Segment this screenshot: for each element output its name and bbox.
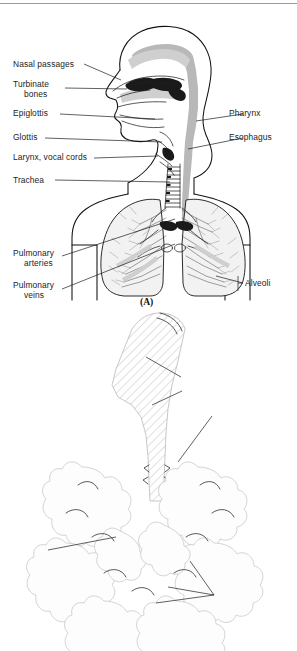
label-turbinate-bones: Turbinate bones — [13, 79, 91, 100]
panel-a-upper-respiratory-diagram: Nasal passages Turbinate bones Epiglotti… — [0, 8, 297, 313]
label-esophagus: Esophagus — [229, 132, 272, 142]
label-pulmonary-arteries-line2: arteries — [13, 258, 91, 268]
panel-b-labels: Terminal bronchiole Respiratory bronchio… — [0, 305, 297, 651]
label-nasal-passages: Nasal passages — [13, 59, 74, 69]
label-pharynx: Pharynx — [229, 108, 260, 118]
label-glottis: Glottis — [13, 132, 37, 142]
label-turbinate-bones-line2: bones — [13, 89, 91, 99]
label-alveoli: Alveoli — [245, 278, 270, 288]
label-turbinate-bones-line1: Turbinate — [13, 79, 49, 89]
label-trachea: Trachea — [13, 175, 44, 185]
label-pulmonary-veins-line1: Pulmonary — [13, 280, 54, 290]
label-epiglottis: Epiglottis — [13, 108, 48, 118]
label-pulmonary-arteries-line1: Pulmonary — [13, 248, 54, 258]
label-larynx-vocal-cords: Larynx, vocal cords — [13, 152, 87, 162]
label-pulmonary-veins-line2: veins — [13, 290, 91, 300]
panel-a-labels: Nasal passages Turbinate bones Epiglotti… — [0, 8, 297, 313]
top-divider-rule — [0, 3, 297, 4]
label-pulmonary-arteries: Pulmonary arteries — [13, 248, 91, 269]
label-pulmonary-veins: Pulmonary veins — [13, 280, 91, 301]
panel-b-alveolar-unit-diagram: Terminal bronchiole Respiratory bronchio… — [0, 305, 297, 651]
respiratory-system-figure: Nasal passages Turbinate bones Epiglotti… — [0, 0, 297, 651]
